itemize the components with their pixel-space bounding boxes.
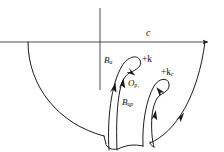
keyhole-right-inner-edge bbox=[152, 95, 160, 147]
outer-right-arc bbox=[150, 42, 205, 143]
branch-label-Ba: Ba bbox=[104, 56, 112, 66]
origin-label-Op: Op₁ bbox=[128, 79, 139, 89]
bottom-closures-group bbox=[106, 142, 154, 149]
contour-label-c: c bbox=[146, 29, 150, 39]
contour-svg bbox=[0, 0, 224, 152]
outer-left-arc bbox=[28, 42, 104, 136]
branch-point-label-plus-k: +k bbox=[142, 55, 152, 65]
arrowhead-right-keyhole-down bbox=[156, 87, 164, 97]
branch-label-Bqp: Bqp bbox=[122, 98, 133, 108]
branch-point-label-plus-kc: +kc bbox=[161, 68, 174, 78]
bottom-left-join bbox=[104, 136, 106, 144]
axes-group bbox=[0, 8, 208, 90]
bottom-gap-mid bbox=[118, 145, 143, 149]
arrowhead-left-inner-up bbox=[119, 78, 125, 88]
contour-diagram-figure: c Ba +k +kc Op₁ Bqp bbox=[0, 0, 224, 152]
bottom-gap-left bbox=[106, 145, 117, 149]
